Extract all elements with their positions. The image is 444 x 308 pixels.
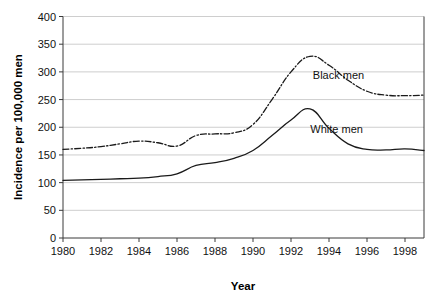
x-tick-label: 1996 xyxy=(355,245,379,257)
y-tick-label: 250 xyxy=(38,94,56,106)
x-tick-label: 1994 xyxy=(317,245,341,257)
line-chart: 050100150200250300350400 198019821984198… xyxy=(0,0,444,308)
x-tick-label: 1982 xyxy=(89,245,113,257)
x-tick-label: 1992 xyxy=(279,245,303,257)
y-tick-label: 100 xyxy=(38,177,56,189)
chart-background xyxy=(0,0,444,308)
y-axis-title: Incidence per 100,000 men xyxy=(12,54,24,200)
y-tick-label: 200 xyxy=(38,121,56,133)
y-tick-label: 350 xyxy=(38,38,56,50)
y-tick-label: 150 xyxy=(38,149,56,161)
series-annotation-label: White men xyxy=(310,123,363,135)
x-tick-label: 1980 xyxy=(51,245,75,257)
x-tick-label: 1990 xyxy=(241,245,265,257)
y-tick-label: 300 xyxy=(38,66,56,78)
y-tick-label: 400 xyxy=(38,11,56,23)
x-tick-label: 1986 xyxy=(165,245,189,257)
x-axis-title: Year xyxy=(231,280,256,292)
chart-container: 050100150200250300350400 198019821984198… xyxy=(0,0,444,308)
x-tick-label: 1988 xyxy=(203,245,227,257)
y-tick-label: 50 xyxy=(44,204,56,216)
y-tick-label: 0 xyxy=(50,232,56,244)
series-annotation-label: Black men xyxy=(313,69,364,81)
x-tick-label: 1984 xyxy=(127,245,151,257)
x-tick-label: 1998 xyxy=(393,245,417,257)
